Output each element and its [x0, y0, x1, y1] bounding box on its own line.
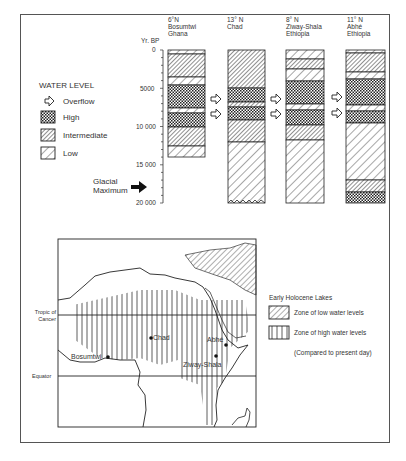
legend-intermediate: Intermediate [63, 131, 107, 140]
legend-high: High [63, 113, 79, 122]
axis-label: Yr. BP [141, 37, 159, 44]
map-legend-note: (Compared to present day) [294, 349, 372, 356]
site-header-chad: 13° NChad [227, 16, 243, 30]
column-abhe [346, 50, 385, 203]
legend-overflow: Overflow [63, 97, 95, 106]
glacial-maximum-label: GlacialMaximum [93, 177, 128, 195]
column-chad [228, 50, 265, 203]
legend-low: Low [63, 149, 78, 158]
lake-chad: Chad [153, 334, 170, 341]
tick-15000: 15 000 [136, 161, 156, 168]
lake-abhe: Abhé [207, 336, 223, 343]
water-level-legend-icons [41, 96, 55, 159]
equator-label: Equator [32, 373, 51, 380]
column-bosumtwi [168, 50, 205, 157]
water-level-title: WATER LEVEL [39, 81, 94, 90]
tick-5000: 5000 [140, 85, 154, 92]
tick-0: 0 [152, 46, 156, 53]
lake-bosumtwi: Bosumtwi [71, 353, 101, 360]
hollow-arrow-icon [45, 96, 54, 106]
site-header-ziway-shala: 8° NZiway-ShalaEthiopia [286, 16, 322, 37]
site-header-abhe: 11° NAbhéEthiopia [347, 16, 371, 37]
map-legend-low: Zone of low water levels [294, 309, 364, 316]
map-legend-icons [269, 306, 289, 339]
map-legend-high: Zone of high water levels [294, 329, 366, 336]
tick-20000: 20 000 [136, 199, 156, 206]
lake-ziway-shala: Ziway-Shala [183, 361, 222, 368]
y-axis [160, 50, 163, 203]
map-legend-title: Early Holocene Lakes [269, 294, 332, 301]
tropic-label: Tropic ofCancer [30, 309, 56, 323]
tick-10000: 10 000 [136, 123, 156, 130]
figure-graphics [0, 0, 406, 461]
column-ziway-shala [286, 50, 324, 203]
site-header-bosumtwi: 6°NBosumtwiGhana [168, 16, 196, 37]
glacial-maximum-arrow [131, 181, 147, 193]
